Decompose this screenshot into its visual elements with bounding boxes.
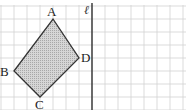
- vertex-label-c: C: [35, 97, 44, 110]
- vertex-label-a: A: [47, 4, 57, 19]
- grid-diagram: ℓ ADCB: [0, 0, 186, 110]
- vertex-label-d: D: [81, 50, 90, 65]
- vertex-label-b: B: [0, 64, 9, 79]
- quadrilateral-ABCD: [14, 19, 79, 97]
- line-l-label: ℓ: [84, 3, 89, 17]
